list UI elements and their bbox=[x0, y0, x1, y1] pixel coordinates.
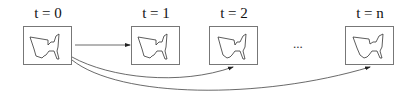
edges-layer bbox=[0, 0, 414, 96]
arrow-t0-to-tn bbox=[72, 60, 370, 90]
arrow-t0-to-t2 bbox=[72, 57, 233, 78]
